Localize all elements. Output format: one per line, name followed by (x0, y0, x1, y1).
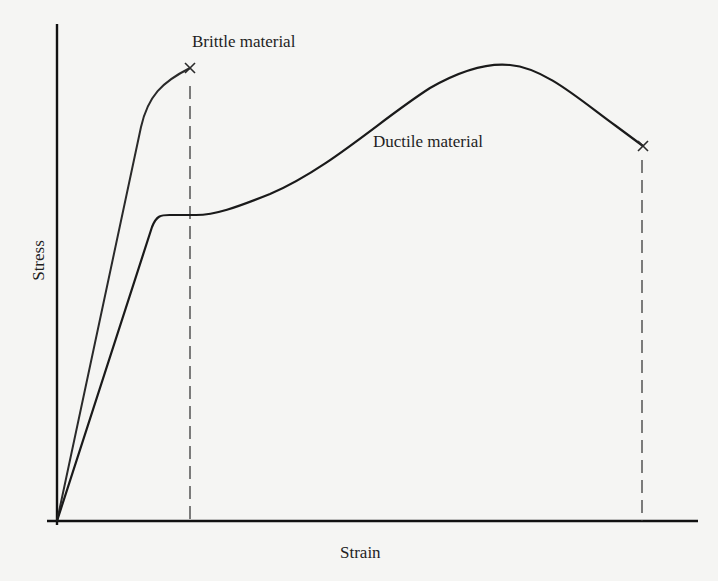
x-axis-label: Strain (340, 544, 381, 561)
brittle-material-label: Brittle material (192, 33, 295, 50)
stress-strain-diagram: Brittle material Ductile material Stress… (0, 0, 718, 581)
ductile-curve (57, 65, 643, 521)
stress-strain-figure (0, 0, 718, 581)
ductile-fracture-marker-icon (638, 141, 648, 151)
ductile-material-label: Ductile material (373, 133, 483, 150)
brittle-curve (57, 68, 190, 521)
y-axis-label: Stress (30, 231, 47, 291)
brittle-fracture-marker-icon (185, 63, 195, 73)
